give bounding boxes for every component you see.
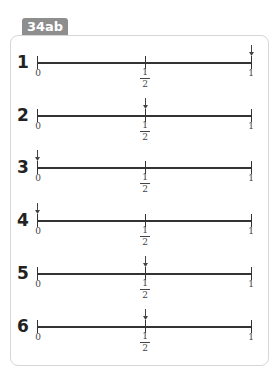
problem-number: 3 (17, 157, 29, 177)
label-half: 12 (140, 279, 150, 300)
label-zero: 0 (33, 332, 43, 342)
label-half: 12 (140, 332, 150, 353)
label-one: 1 (246, 121, 256, 131)
label-half: 12 (140, 226, 150, 247)
label-half: 12 (140, 68, 150, 89)
problem-number: 1 (17, 52, 29, 72)
arrow-down-icon (34, 203, 41, 215)
label-half: 12 (140, 173, 150, 194)
problem-number: 6 (17, 316, 29, 336)
label-one: 1 (246, 332, 256, 342)
label-half: 12 (140, 121, 150, 142)
label-zero: 0 (33, 121, 43, 131)
label-zero: 0 (33, 173, 43, 183)
label-zero: 0 (33, 226, 43, 236)
arrow-down-icon (34, 150, 41, 162)
arrow-down-icon (142, 309, 149, 321)
arrow-down-icon (142, 256, 149, 268)
label-one: 1 (246, 226, 256, 236)
number-line-row: 5 0 12 1 (0, 273, 280, 313)
problem-number: 4 (17, 210, 29, 230)
label-zero: 0 (33, 68, 43, 78)
number-line-row: 1 0 12 1 (0, 62, 280, 102)
arrow-down-icon (142, 98, 149, 110)
problem-number: 2 (17, 105, 29, 125)
label-one: 1 (246, 279, 256, 289)
number-line-row: 2 0 12 1 (0, 115, 280, 155)
problem-number: 5 (17, 263, 29, 283)
label-one: 1 (246, 68, 256, 78)
exercise-badge: 34ab (22, 18, 68, 35)
number-line-row: 3 0 12 1 (0, 167, 280, 207)
label-zero: 0 (33, 279, 43, 289)
arrow-down-icon (248, 45, 255, 57)
number-line-row: 4 0 12 1 (0, 220, 280, 260)
number-line-row: 6 0 12 1 (0, 326, 280, 366)
label-one: 1 (246, 173, 256, 183)
